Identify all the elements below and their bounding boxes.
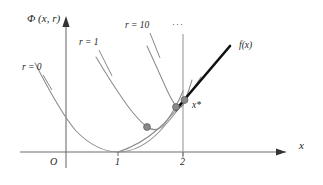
curve-r-1: [96, 57, 183, 130]
marker-min-r-1: [144, 124, 151, 131]
marker-x-star: [181, 97, 188, 104]
y-axis-arrowhead: [62, 16, 69, 27]
curve-label-r-0: r = 0: [22, 63, 42, 73]
penalty-function-figure: Φ (x, r) x r = 0 r = 1 r = 10 ··· f(x) x…: [0, 0, 323, 185]
leader-line-r-0: [43, 75, 52, 90]
y-axis-label: Φ (x, r): [27, 13, 60, 24]
fx-label: f(x): [239, 41, 252, 51]
curve-label-r-1: r = 1: [79, 38, 99, 48]
x-axis: [20, 148, 286, 155]
x-tick-label-2: 2: [180, 157, 185, 167]
x-star-label: x*: [192, 101, 201, 111]
x-tick-label-1: 1: [115, 157, 120, 167]
leader-line-r-10: [150, 33, 160, 58]
marker-min-r-10: [173, 104, 180, 111]
y-axis: [62, 16, 69, 168]
curve-label-r-10: r = 10: [125, 21, 149, 31]
figure-canvas: [0, 0, 323, 185]
x-axis-label: x: [299, 140, 304, 151]
origin-label: O: [50, 157, 57, 167]
x-axis-arrowhead: [276, 148, 286, 155]
ellipsis-label: ···: [172, 20, 184, 29]
